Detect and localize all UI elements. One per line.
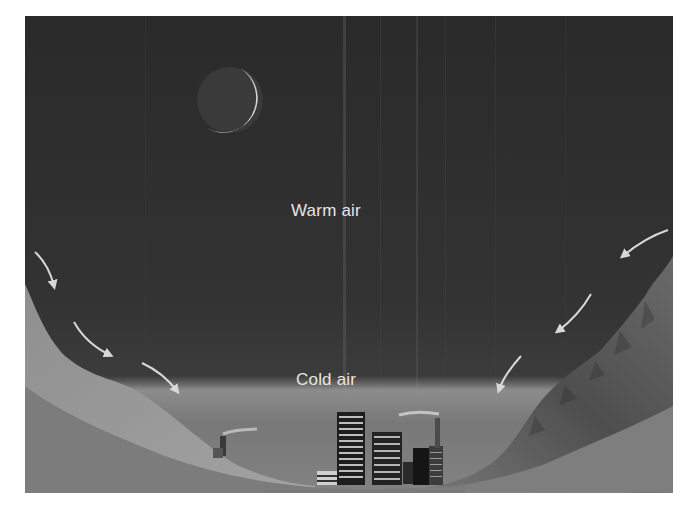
cold-air-label: Cold air (296, 370, 356, 390)
diagram-frame: Warm air Cold air (25, 16, 673, 493)
valley-scene (25, 16, 673, 493)
crescent-moon-icon (197, 67, 263, 133)
warm-air-label: Warm air (291, 201, 361, 221)
